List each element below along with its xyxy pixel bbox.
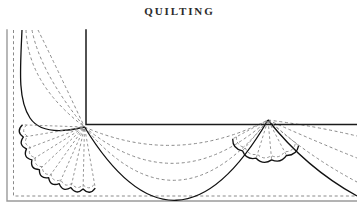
corner-fan-right xyxy=(233,121,299,163)
inner-border xyxy=(86,30,357,125)
corner-fan-left xyxy=(19,125,95,192)
quilting-plate-page: QUILTING xyxy=(0,0,357,214)
swag-group xyxy=(20,30,357,200)
quilting-corner-pattern-svg xyxy=(0,0,357,214)
pattern-illustration xyxy=(0,0,357,214)
outer-frame xyxy=(7,30,357,201)
